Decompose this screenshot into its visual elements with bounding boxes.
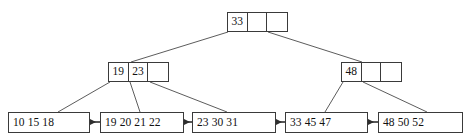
edge-root-to-left-internal [131,32,228,62]
edge-root-to-right-internal [268,32,362,62]
leaf-node-1-keys: 10 15 18 [9,117,89,129]
internal-node-right-cell-3 [381,63,401,81]
leaf-node-2-keys: 19 20 21 22 [101,117,183,129]
root-node[interactable]: 33 [227,12,288,32]
leaf-node-3-keys: 23 30 31 [193,117,275,129]
root-node-cell-2 [248,13,268,31]
root-node-cell-3 [267,13,287,31]
internal-node-left[interactable]: 1923 [108,62,169,82]
leaf-node-5[interactable]: 48 50 52 [378,112,463,133]
leaf-node-4-keys: 33 45 47 [286,117,367,129]
btree-diagram: 3319234810 15 1819 20 21 2223 30 3133 45… [0,0,473,137]
edge-right-internal-to-leaf4 [325,82,343,112]
leaf-node-2[interactable]: 19 20 21 22 [100,112,184,133]
edge-left-internal-to-leaf1 [58,82,110,112]
internal-node-left-cell-1: 19 [109,63,129,81]
edge-right-internal-to-leaf5 [363,82,427,112]
root-node-cell-1: 33 [228,13,248,31]
edge-left-internal-to-leaf2 [130,82,140,112]
leaf-node-5-keys: 48 50 52 [379,117,462,129]
internal-node-left-cell-3 [148,63,168,81]
leaf-node-1[interactable]: 10 15 18 [8,112,90,133]
internal-node-right-cell-1: 48 [342,63,362,81]
internal-node-right-cell-2 [362,63,382,81]
edge-left-internal-to-leaf3 [150,82,227,112]
internal-node-right[interactable]: 48 [341,62,402,82]
leaf-node-3[interactable]: 23 30 31 [192,112,276,133]
leaf-node-4[interactable]: 33 45 47 [285,112,368,133]
internal-node-left-cell-2: 23 [129,63,149,81]
